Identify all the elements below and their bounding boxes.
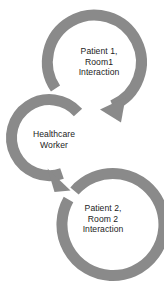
patient2-arc [62,174,164,276]
worker-circular-arrow-icon [11,100,78,192]
cycle-diagram-graphics [0,0,164,289]
patient2-circular-arrow-icon [62,174,164,276]
cycle-diagram: Patient 1, Room1 Interaction Healthcare … [0,0,164,289]
worker-arc [11,100,78,176]
patient1-arc [47,15,141,105]
